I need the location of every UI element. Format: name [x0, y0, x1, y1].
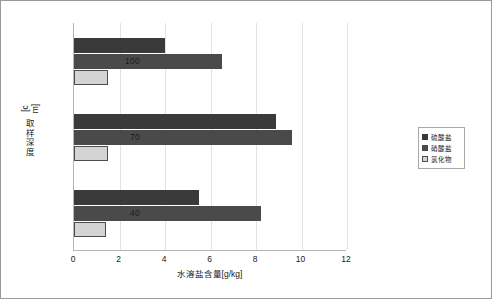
- legend-item[interactable]: 硫酸盐: [422, 132, 461, 142]
- legend-swatch-icon: [422, 145, 428, 151]
- legend-swatch-icon: [422, 134, 428, 140]
- x-axis-tick: 6: [195, 254, 225, 264]
- bar-硫酸盐-100: [74, 38, 165, 53]
- x-axis-label: 水溶盐含量[g/kg]: [73, 267, 346, 279]
- chart-legend: 硫酸盐硝酸盐氯化物: [418, 127, 465, 169]
- y-axis-unit: [cm]: [21, 102, 40, 116]
- x-axis-tick: 4: [149, 254, 179, 264]
- legend-swatch-icon: [422, 156, 428, 162]
- legend-label: 硝酸盐: [431, 143, 452, 153]
- chart-figure: [cm] 取样深度 水溶盐含量[g/kg] 硫酸盐硝酸盐氯化物 02468101…: [0, 0, 492, 299]
- legend-label: 硫酸盐: [431, 132, 452, 142]
- bar-硫酸盐-40: [74, 190, 199, 205]
- y-axis-label: [cm] 取样深度: [23, 99, 37, 157]
- x-axis-tick: 0: [58, 254, 88, 264]
- legend-label: 氯化物: [431, 154, 452, 164]
- bar-氯化物-70: [74, 146, 108, 161]
- x-axis-tick: 8: [240, 254, 270, 264]
- y-axis-tick: 70: [100, 132, 140, 142]
- y-axis-tick: 100: [100, 56, 140, 66]
- y-axis-tick: 40: [100, 208, 140, 218]
- x-axis-tick: 2: [104, 254, 134, 264]
- bar-硝酸盐-100: [74, 54, 222, 69]
- bar-氯化物-40: [74, 222, 106, 237]
- x-axis-tick: 10: [286, 254, 316, 264]
- legend-item[interactable]: 硝酸盐: [422, 143, 461, 153]
- y-axis-label-text: 取样深度: [26, 118, 35, 157]
- bar-氯化物-100: [74, 70, 108, 85]
- legend-item[interactable]: 氯化物: [422, 154, 461, 164]
- grid-line: [347, 23, 348, 250]
- x-axis-tick: 12: [331, 254, 361, 264]
- bar-硫酸盐-70: [74, 114, 276, 129]
